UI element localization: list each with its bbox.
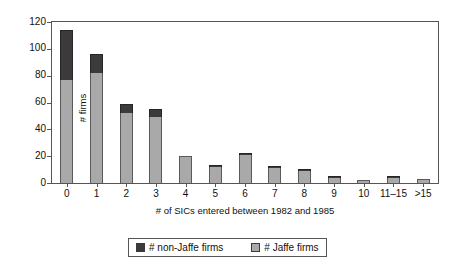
x-axis-tick-label: 4 xyxy=(183,188,189,199)
x-axis-tick-mark xyxy=(423,183,424,187)
y-axis-tick-mark xyxy=(47,103,52,104)
x-axis-tick-mark xyxy=(97,183,98,187)
x-axis-tick-mark xyxy=(215,183,216,187)
bar-column xyxy=(268,166,281,183)
x-axis-tick-mark xyxy=(275,183,276,187)
bar-segment-jaffe xyxy=(179,156,192,183)
bar-segment-jaffe xyxy=(120,113,133,183)
x-axis-tick-mark xyxy=(245,183,246,187)
legend-swatch-non-jaffe-icon xyxy=(136,243,145,252)
x-axis-tick-label: 7 xyxy=(272,188,278,199)
y-axis-tick-mark xyxy=(47,129,52,130)
y-axis-tick-mark xyxy=(47,183,52,184)
bar-segment-jaffe xyxy=(209,167,222,183)
x-axis-tick-mark xyxy=(186,183,187,187)
y-axis-tick-label: 120 xyxy=(29,16,46,27)
plot-frame: 02040608010012001234567891011–15>15 # fi… xyxy=(51,21,439,184)
plot-area: 02040608010012001234567891011–15>15 xyxy=(52,22,438,183)
x-axis-tick-mark xyxy=(156,183,157,187)
x-axis-tick-mark xyxy=(334,183,335,187)
bar-segment-non-jaffe xyxy=(90,54,103,73)
bar-segment-jaffe xyxy=(149,117,162,183)
y-axis-tick-label: 80 xyxy=(35,69,46,80)
y-axis-tick-mark xyxy=(47,76,52,77)
bar-column xyxy=(120,104,133,183)
bar-column xyxy=(239,153,252,183)
x-axis-tick-label: 0 xyxy=(64,188,70,199)
chart-legend: # non-Jaffe firms # Jaffe firms xyxy=(128,238,327,257)
bar-column xyxy=(179,156,192,183)
x-axis-tick-mark xyxy=(67,183,68,187)
legend-swatch-jaffe-icon xyxy=(251,243,260,252)
y-axis-label: # firms xyxy=(77,63,88,153)
bar-chart-figure: 02040608010012001234567891011–15>15 # fi… xyxy=(0,0,468,267)
bar-segment-jaffe xyxy=(268,168,281,183)
bar-segment-jaffe xyxy=(90,73,103,183)
x-axis-tick-mark xyxy=(126,183,127,187)
bar-column xyxy=(90,54,103,183)
bar-column xyxy=(60,30,73,183)
bar-column xyxy=(209,165,222,183)
x-axis-tick-label: 6 xyxy=(242,188,248,199)
bar-column xyxy=(298,169,311,183)
y-axis-tick-label: 40 xyxy=(35,123,46,134)
x-axis-tick-label: 3 xyxy=(153,188,159,199)
bar-segment-jaffe xyxy=(239,155,252,183)
x-axis-tick-label: 11–15 xyxy=(380,188,407,199)
y-axis-tick-label: 20 xyxy=(35,150,46,161)
y-axis-tick-mark xyxy=(47,22,52,23)
bar-segment-jaffe xyxy=(60,80,73,183)
bar-segment-jaffe xyxy=(298,171,311,183)
legend-entry-non-jaffe: # non-Jaffe firms xyxy=(136,242,223,253)
x-axis-tick-mark xyxy=(304,183,305,187)
x-axis-tick-label: 5 xyxy=(213,188,219,199)
x-axis-tick-label: 2 xyxy=(123,188,129,199)
x-axis-title: # of SICs entered between 1982 and 1985 xyxy=(51,205,439,216)
x-axis-tick-label: 10 xyxy=(358,188,369,199)
legend-label-jaffe: # Jaffe firms xyxy=(264,242,318,253)
x-axis-tick-label: 8 xyxy=(302,188,308,199)
bar-segment-non-jaffe xyxy=(60,30,73,80)
x-axis-tick-label: >15 xyxy=(415,188,432,199)
y-axis-tick-mark xyxy=(47,49,52,50)
legend-label-non-jaffe: # non-Jaffe firms xyxy=(149,242,223,253)
x-axis-tick-mark xyxy=(393,183,394,187)
legend-entry-jaffe: # Jaffe firms xyxy=(251,242,318,253)
bar-segment-non-jaffe xyxy=(120,104,133,113)
bar-segment-non-jaffe xyxy=(149,109,162,117)
bar-column xyxy=(387,176,400,183)
y-axis-tick-mark xyxy=(47,156,52,157)
x-axis-tick-label: 9 xyxy=(331,188,337,199)
bar-column xyxy=(149,109,162,183)
y-axis-tick-label: 60 xyxy=(35,96,46,107)
bar-column xyxy=(328,176,341,183)
y-axis-tick-label: 0 xyxy=(40,177,46,188)
x-axis-tick-mark xyxy=(364,183,365,187)
y-axis-tick-label: 100 xyxy=(29,42,46,53)
x-axis-tick-label: 1 xyxy=(94,188,100,199)
